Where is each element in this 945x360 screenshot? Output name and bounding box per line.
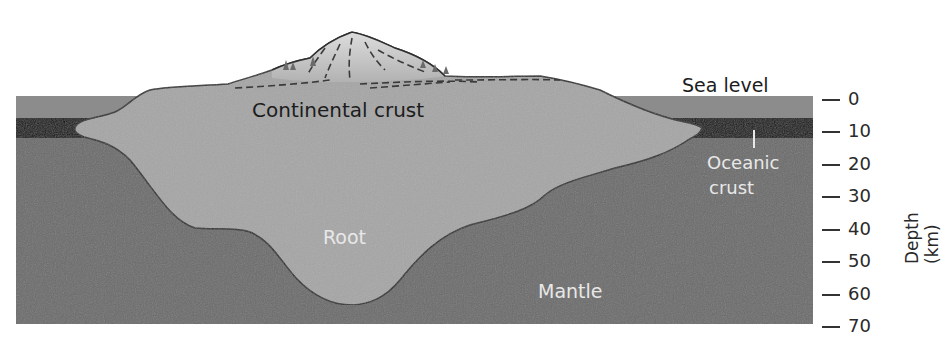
depth-tick: 0 xyxy=(822,90,859,108)
depth-tick: 10 xyxy=(822,122,871,140)
oceanic-crust-label-line1: Oceanic xyxy=(707,152,779,173)
depth-tick: 60 xyxy=(822,285,871,303)
root-label: Root xyxy=(323,226,366,248)
depth-tick: 30 xyxy=(822,187,871,205)
depth-tick: 20 xyxy=(822,155,871,173)
depth-tick: 40 xyxy=(822,220,871,238)
depth-tick: 70 xyxy=(822,317,871,335)
depth-tick: 50 xyxy=(822,252,871,270)
crust-cross-section xyxy=(0,0,945,360)
mantle-label: Mantle xyxy=(538,280,603,302)
oceanic-crust-label-line2: crust xyxy=(709,177,754,198)
depth-axis-title: Depth (km) xyxy=(902,212,942,264)
sea-level-label: Sea level xyxy=(682,74,769,96)
continental-crust-label: Continental crust xyxy=(252,98,424,122)
